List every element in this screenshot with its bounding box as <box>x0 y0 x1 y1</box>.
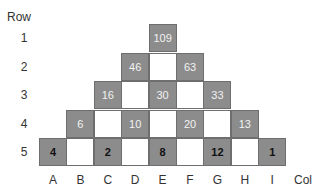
row-label: 5 <box>21 145 28 159</box>
col-label: D <box>131 173 140 187</box>
cell-D4: 10 <box>121 110 149 138</box>
cell-F5 <box>176 138 204 166</box>
col-label: C <box>103 173 112 187</box>
cell-A5: 4 <box>39 138 67 166</box>
cell-E5: 8 <box>149 138 177 166</box>
cell-G4 <box>203 110 231 138</box>
cell-B4: 6 <box>66 110 94 138</box>
cell-F4: 20 <box>176 110 204 138</box>
cell-E3: 30 <box>149 81 177 109</box>
cell-D3 <box>121 81 149 109</box>
cell-C3: 16 <box>94 81 122 109</box>
col-label: A <box>49 173 57 187</box>
row-label: 4 <box>21 117 28 131</box>
cell-F3 <box>176 81 204 109</box>
col-label: E <box>159 173 167 187</box>
cell-I5: 1 <box>258 138 286 166</box>
col-label: I <box>271 173 274 187</box>
cell-E4 <box>149 110 177 138</box>
row-header: Row <box>7 10 31 24</box>
cell-H4: 13 <box>231 110 259 138</box>
cell-G3: 33 <box>203 81 231 109</box>
col-label: H <box>240 173 249 187</box>
col-label: B <box>76 173 84 187</box>
cell-H5 <box>231 138 259 166</box>
cell-C5: 2 <box>94 138 122 166</box>
cell-F2: 63 <box>176 53 204 81</box>
cell-E1: 109 <box>149 24 177 52</box>
col-label: F <box>186 173 193 187</box>
cell-D5 <box>121 138 149 166</box>
col-header: Col <box>294 173 312 187</box>
row-label: 2 <box>21 60 28 74</box>
row-label: 3 <box>21 88 28 102</box>
cell-B5 <box>66 138 94 166</box>
cell-E2 <box>149 53 177 81</box>
cell-C4 <box>94 110 122 138</box>
col-label: G <box>213 173 222 187</box>
row-label: 1 <box>21 31 28 45</box>
cell-D2: 46 <box>121 53 149 81</box>
cell-G5: 12 <box>203 138 231 166</box>
